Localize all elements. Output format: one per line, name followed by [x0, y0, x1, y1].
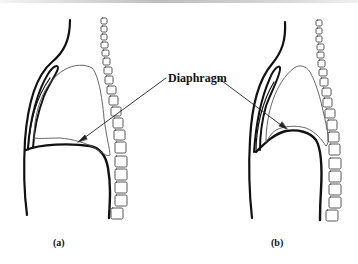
diaphragm-label: Diaphragm	[168, 71, 227, 86]
panel-a-diaphragm	[26, 144, 110, 218]
panel-b-diaphragm	[256, 130, 321, 220]
panel-b-rib-loop	[254, 66, 280, 152]
panel-a-caption: (a)	[53, 237, 65, 248]
panel-b-caption: (b)	[271, 237, 283, 248]
panel-a-spine	[101, 18, 127, 219]
panel-a-pointer-line	[80, 78, 166, 141]
diaphragm-diagram	[0, 0, 358, 264]
panel-b-lung	[266, 66, 328, 146]
panel-a-anterior-wall	[24, 20, 70, 215]
panel-a	[24, 18, 166, 219]
panel-a-arrowhead	[78, 135, 87, 142]
panel-b	[218, 20, 341, 221]
panel-b-anterior-wall	[249, 22, 285, 218]
